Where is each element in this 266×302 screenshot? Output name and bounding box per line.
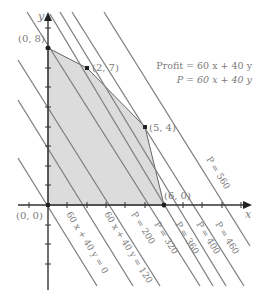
x-axis-label: x <box>245 208 252 221</box>
isoline-label-p200: P = 200 <box>129 210 157 246</box>
isoline-label-p0: 60 x + 40 y = 0 <box>64 210 110 276</box>
objective-title-line1: Profit = 60 x + 40 y <box>156 60 252 71</box>
objective-title-line2: P = 60 x + 40 y <box>176 74 253 85</box>
vertex-label-5-4: (5, 4) <box>149 122 176 133</box>
vertex-label-0-0: (0, 0) <box>16 210 43 221</box>
vertex-label-0-8: (0, 8) <box>18 33 45 44</box>
y-axis-label: y <box>37 10 45 23</box>
vertex-label-6-0: (6, 0) <box>164 190 191 201</box>
isoline-label-p120: 60 x + 40 y = 120 <box>102 210 154 285</box>
linear-programming-figure: y x (0, 8) (2, 7) (5, 4) (6, 0) (0, 0) P… <box>0 0 266 302</box>
vertex-label-2-7: (2, 7) <box>92 62 119 73</box>
isoline-label-p560: P = 560 <box>204 155 232 191</box>
